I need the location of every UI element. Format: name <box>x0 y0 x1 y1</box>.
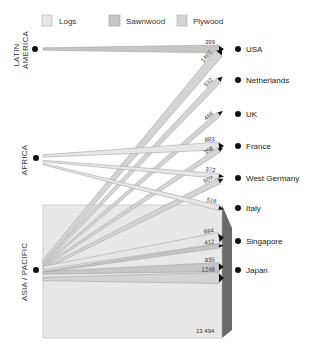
source-latin-america: LATIN AMERICA <box>12 31 38 69</box>
destination-france: France <box>235 142 271 151</box>
flow-arrowhead <box>219 174 224 178</box>
destination-node-italy <box>235 205 241 211</box>
destination-netherlands: Netherlands <box>235 76 289 85</box>
source-asia-pacific: ASIA / PACIFIC <box>20 243 39 301</box>
source-nodes: LATIN AMERICA AFRICA ASIA / PACIFIC <box>12 31 39 302</box>
source-node-africa <box>33 155 39 161</box>
destination-singapore: Singapore <box>235 237 283 246</box>
legend-swatch-sawnwood <box>109 15 120 26</box>
source-label-asia-pacific: ASIA / PACIFIC <box>20 243 29 301</box>
flow-value-label-935: 935 <box>205 257 216 263</box>
destination-nodes: USANetherlandsUKFranceWest GermanyItalyS… <box>235 45 299 275</box>
source-label-latin-america-line1: LATIN <box>12 43 21 66</box>
destination-node-uk <box>235 111 241 117</box>
destination-label-usa: USA <box>246 45 263 54</box>
destination-label-singapore: Singapore <box>246 237 283 246</box>
legend-item-sawnwood: Sawnwood <box>109 15 165 26</box>
flow-value-label-883: 883 <box>204 136 215 143</box>
legend-swatch-plywood <box>177 15 187 26</box>
destination-label-uk: UK <box>246 110 258 119</box>
destination-node-west-germany <box>235 175 241 181</box>
legend-item-logs: Logs <box>42 15 76 26</box>
destination-label-japan: Japan <box>246 266 268 275</box>
legend-label-sawnwood: Sawnwood <box>126 17 165 26</box>
logs-block-shadow <box>222 205 232 338</box>
destination-italy: Italy <box>235 204 261 213</box>
source-label-latin-america-line2: AMERICA <box>21 31 30 69</box>
source-label-africa: AFRICA <box>20 144 29 175</box>
flow-band-latin-america-to-usa-sawnwood <box>43 45 219 53</box>
destination-japan: Japan <box>235 266 268 275</box>
source-africa: AFRICA <box>20 144 39 175</box>
flow-value-label-13494: 13 494 <box>196 328 215 334</box>
timber-trade-flow-diagram: Logs Sawnwood Plywood 13 494 39914625324… <box>0 0 317 354</box>
legend-label-plywood: Plywood <box>193 17 223 26</box>
destination-usa: USA <box>235 45 263 54</box>
destination-node-usa <box>235 46 241 52</box>
destination-label-netherlands: Netherlands <box>246 76 289 85</box>
legend-item-plywood: Plywood <box>177 15 223 26</box>
destination-west-germany: West Germany <box>235 174 299 183</box>
destination-uk: UK <box>235 110 258 119</box>
legend-swatch-logs <box>42 15 52 26</box>
flow-value-label-1248: 1248 <box>202 267 216 273</box>
destination-node-france <box>235 143 241 149</box>
flow-value-label-372: 372 <box>205 166 216 173</box>
destination-label-italy: Italy <box>246 204 261 213</box>
legend-label-logs: Logs <box>59 17 76 26</box>
destination-node-japan <box>235 267 241 273</box>
destination-label-france: France <box>246 142 271 151</box>
source-node-asia-pacific <box>33 267 39 273</box>
destination-node-singapore <box>235 238 241 244</box>
legend: Logs Sawnwood Plywood <box>42 15 223 26</box>
flow-value-label-399: 399 <box>205 39 216 45</box>
destination-label-west-germany: West Germany <box>246 174 299 183</box>
source-node-latin-america <box>32 46 38 52</box>
destination-node-netherlands <box>235 77 241 83</box>
